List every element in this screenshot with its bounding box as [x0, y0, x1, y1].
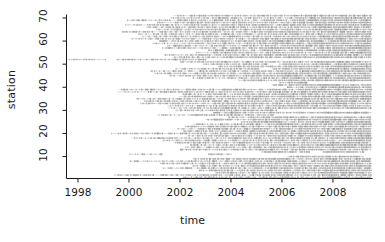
y-axis-title-text: station [6, 69, 19, 108]
station-band [119, 88, 372, 90]
station-band [142, 35, 371, 37]
station-band [126, 19, 371, 21]
x-axis-ticks [78, 179, 333, 183]
station-band [180, 61, 371, 63]
station-band [193, 158, 371, 160]
station-band [116, 58, 206, 60]
station-band [160, 162, 372, 164]
station-band [218, 65, 371, 67]
station-band [129, 160, 371, 162]
station-band [167, 105, 371, 107]
station-band [193, 165, 372, 167]
station-band [208, 153, 232, 155]
station-band [279, 82, 307, 84]
station-band [193, 77, 372, 79]
station-band [125, 24, 372, 26]
x-tick-label: 2004 [211, 186, 251, 198]
y-tick-label: 60 [30, 33, 56, 49]
station-band [140, 102, 371, 104]
station-band [154, 72, 371, 74]
station-band [147, 26, 371, 28]
station-band [177, 128, 371, 130]
station-band [188, 135, 372, 137]
station-band [132, 38, 373, 40]
station-band [111, 132, 371, 134]
station-band [162, 167, 371, 169]
station-band [262, 151, 310, 153]
station-band [208, 49, 371, 51]
station-band [165, 54, 372, 56]
station-band [118, 91, 372, 93]
station-band [169, 107, 372, 109]
y-tick-label: 30 [30, 102, 56, 118]
station-band [170, 17, 372, 19]
station-band [183, 130, 372, 132]
station-band [216, 172, 372, 174]
station-band [287, 86, 371, 88]
x-tick-label: 2000 [109, 186, 149, 198]
station-band [175, 109, 277, 111]
station-band [205, 119, 371, 121]
station-band [193, 123, 372, 125]
station-band [170, 75, 372, 77]
y-tick-label: 10 [30, 149, 56, 165]
station-band [167, 45, 371, 47]
station-band [129, 153, 162, 155]
station-band [185, 146, 371, 148]
station-band [157, 114, 274, 116]
station-band [287, 155, 364, 157]
station-band [185, 125, 371, 127]
x-tick-label: 1998 [58, 186, 98, 198]
station-band [157, 22, 371, 24]
x-tick-label: 2002 [160, 186, 200, 198]
y-axis-title: station [0, 0, 24, 178]
station-band [175, 68, 259, 70]
station-band [239, 79, 372, 81]
station-band [180, 149, 371, 151]
station-band [144, 100, 371, 102]
station-band [68, 58, 106, 60]
y-tick-label: 70 [30, 10, 56, 26]
station-band [172, 56, 371, 58]
plot-canvas [0, 0, 385, 242]
station-band [137, 98, 372, 100]
station-band [203, 63, 268, 65]
station-band [272, 68, 372, 70]
station-band [121, 31, 371, 33]
station-band [162, 47, 371, 49]
y-axis-ticks [63, 18, 67, 157]
station-band [183, 93, 372, 95]
station-band [152, 42, 371, 44]
station-band [241, 121, 371, 123]
y-tick-label: 50 [30, 56, 56, 72]
station-band [199, 169, 372, 171]
station-band [190, 144, 371, 146]
station-band [213, 112, 371, 114]
data-points-layer [68, 15, 372, 179]
station-band [279, 63, 371, 65]
x-tick-label: 2006 [262, 186, 302, 198]
availability-plot: station time 10203040506070 199820002002… [0, 0, 385, 242]
x-tick-label: 2008 [313, 186, 353, 198]
station-band [160, 40, 372, 42]
station-band [174, 15, 372, 17]
station-band [138, 33, 372, 35]
station-band [162, 139, 371, 141]
station-band [323, 151, 364, 153]
station-band [151, 70, 372, 72]
station-band [179, 95, 372, 97]
station-band [156, 28, 372, 30]
x-axis-title: time [0, 214, 385, 227]
station-band [272, 84, 372, 86]
station-band [114, 174, 372, 176]
station-band [132, 137, 373, 139]
station-band [174, 142, 372, 144]
station-band [228, 116, 371, 118]
y-tick-label: 20 [30, 125, 56, 141]
y-tick-label: 40 [30, 79, 56, 95]
station-band [195, 52, 371, 54]
